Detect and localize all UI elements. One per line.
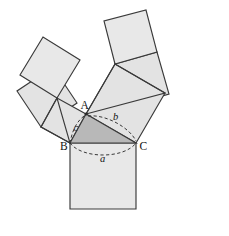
figure-canvas: A B C a b c xyxy=(0,0,229,236)
vertex-label-b: B xyxy=(60,140,68,152)
pythagorean-figure: A B C a b c xyxy=(0,0,229,236)
side-label-a: a xyxy=(100,153,105,164)
vertex-label-c: C xyxy=(140,140,148,152)
vertex-dot-a xyxy=(84,112,87,115)
vertex-label-a: A xyxy=(81,99,90,111)
side-label-b: b xyxy=(113,111,118,122)
side-label-c: c xyxy=(74,122,79,133)
